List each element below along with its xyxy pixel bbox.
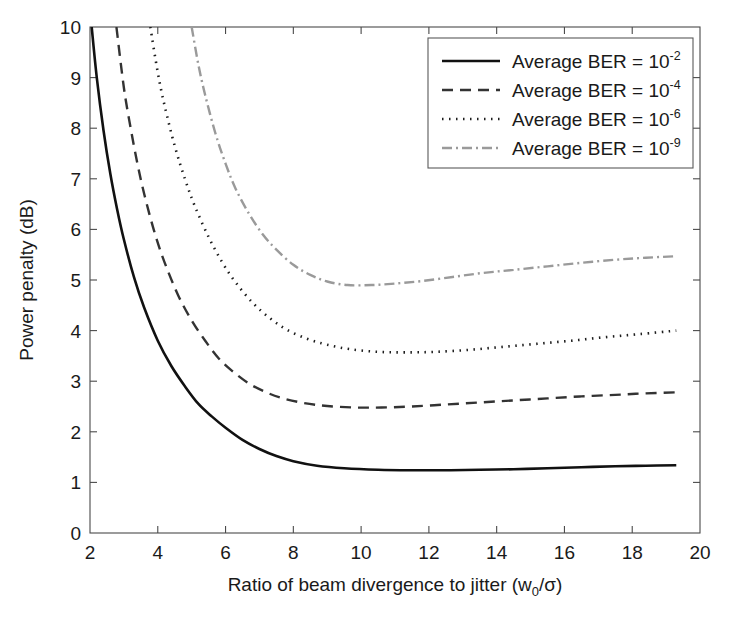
x-tick-label: 18 [622, 542, 643, 563]
legend-label-main-1: Average BER = 10 [512, 51, 670, 72]
x-tick-label: 12 [418, 542, 439, 563]
x-axis-title-tail: /σ) [539, 574, 562, 595]
y-tick-label: 5 [70, 270, 81, 291]
y-tick-label: 0 [70, 523, 81, 544]
x-axis-title-main: Ratio of beam divergence to jitter (w [228, 574, 532, 595]
x-tick-label: 14 [486, 542, 508, 563]
x-tick-label: 2 [85, 542, 96, 563]
y-tick-label: 3 [70, 371, 81, 392]
y-tick-label: 6 [70, 219, 81, 240]
chart-legend: Average BER = 10-2Average BER = 10-4Aver… [428, 38, 693, 168]
x-tick-label: 8 [288, 542, 299, 563]
legend-label-main-3: Average BER = 10 [512, 109, 670, 130]
y-tick-label: 2 [70, 422, 81, 443]
legend-label-main-4: Average BER = 10 [512, 138, 670, 159]
y-tick-label: 10 [60, 17, 81, 38]
x-tick-label: 6 [220, 542, 231, 563]
y-axis-title: Power penalty (dB) [16, 199, 37, 361]
x-tick-label: 20 [689, 542, 710, 563]
y-tick-label: 7 [70, 169, 81, 190]
chart-figure: 2468101214161820012345678910 Ratio of be… [0, 0, 748, 624]
legend-label-4: Average BER = 10-9 [512, 136, 681, 159]
x-tick-label: 10 [351, 542, 372, 563]
y-tick-label: 9 [70, 68, 81, 89]
x-axis-title-subscript: 0 [532, 584, 539, 599]
x-tick-label: 4 [152, 542, 163, 563]
power-penalty-line-chart: 2468101214161820012345678910 Ratio of be… [0, 0, 748, 624]
y-tick-label: 4 [70, 321, 81, 342]
legend-label-exponent-4: -9 [670, 136, 681, 150]
y-tick-label: 8 [70, 118, 81, 139]
legend-label-main-2: Average BER = 10 [512, 80, 670, 101]
x-tick-label: 16 [554, 542, 575, 563]
legend-label-3: Average BER = 10-6 [512, 107, 681, 130]
legend-label-1: Average BER = 10-2 [512, 49, 681, 72]
legend-label-exponent-3: -6 [670, 107, 681, 121]
legend-label-exponent-1: -2 [670, 49, 681, 63]
y-tick-label: 1 [70, 472, 81, 493]
legend-label-2: Average BER = 10-4 [512, 78, 681, 101]
legend-label-exponent-2: -4 [670, 78, 681, 92]
